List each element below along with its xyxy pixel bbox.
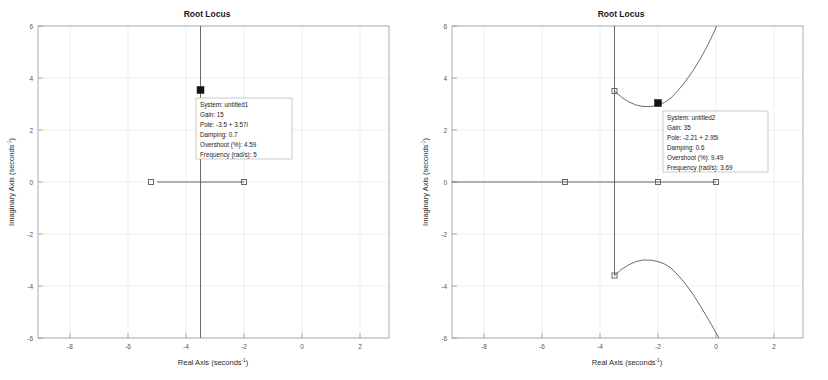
datatip-overshoot: Overshoot (%): 4.59 xyxy=(200,141,257,149)
page-title: Root Locus xyxy=(184,9,231,19)
ytick-label: 6 xyxy=(443,23,447,30)
datatip-overshoot: Overshoot (%): 9.49 xyxy=(667,154,724,162)
xtick-label: -8 xyxy=(67,343,73,350)
datatip-system: System: untitled1 xyxy=(200,101,249,109)
ytick-labels-left: 6 4 2 0 -2 -4 -6 xyxy=(27,23,33,342)
xtick-label: -6 xyxy=(125,343,131,350)
root-locus-panel-left[interactable]: Root Locus xyxy=(0,0,414,380)
xtick-labels-right: -8 -6 -4 -2 0 2 xyxy=(481,343,776,350)
xtick-label: 0 xyxy=(300,343,304,350)
ytick-label: -2 xyxy=(27,231,33,238)
datatip-gain: Gain: 35 xyxy=(667,124,691,131)
root-locus-figure-row: Root Locus xyxy=(0,0,828,380)
ytick-label: 0 xyxy=(443,179,447,186)
yticks-left xyxy=(38,26,43,338)
xtick-label: -8 xyxy=(481,343,487,350)
ytick-label: -6 xyxy=(441,335,447,342)
ytick-label: 4 xyxy=(443,75,447,82)
xtick-label: -4 xyxy=(597,343,603,350)
locus-lower-curved-branch xyxy=(615,260,720,338)
ytick-label: -2 xyxy=(441,231,447,238)
xticks-right xyxy=(484,333,774,338)
xtick-label: 0 xyxy=(714,343,718,350)
datatip-frequency: Frequency (rad/s): 3.69 xyxy=(667,164,733,172)
datatip-left[interactable]: System: untitled1 Gain: 15 Pole: -3.5 + … xyxy=(196,98,292,159)
locus-upper-curved-branch xyxy=(615,26,717,107)
selected-point-marker[interactable] xyxy=(655,100,662,107)
y-axis-label: Imaginary Axis (seconds-1) xyxy=(7,138,16,226)
ytick-label: 4 xyxy=(29,75,33,82)
datatip-frequency: Frequency (rad/s): 5 xyxy=(200,151,257,159)
datatip-pole: Pole: -3.5 + 3.57i xyxy=(200,121,248,128)
y-axis-label: Imaginary Axis (seconds-1) xyxy=(421,138,430,226)
xtick-label: 2 xyxy=(772,343,776,350)
datatip-damping: Damping: 0.7 xyxy=(200,131,238,139)
ytick-label: 2 xyxy=(443,127,447,134)
datatip-system: System: untitled2 xyxy=(667,114,716,122)
ytick-label: 0 xyxy=(29,179,33,186)
x-axis-label: Real Axis (seconds-1) xyxy=(592,358,663,367)
ytick-label: -4 xyxy=(441,283,447,290)
plot-canvas-right[interactable]: Root Locus xyxy=(414,0,828,380)
xtick-labels-left: -8 -6 -4 -2 0 2 xyxy=(67,343,362,350)
xtick-label: 2 xyxy=(358,343,362,350)
datatip-right[interactable]: System: untitled2 Gain: 35 Pole: -2.21 +… xyxy=(663,111,768,172)
xtick-label: -2 xyxy=(241,343,247,350)
xtick-label: -4 xyxy=(183,343,189,350)
datatip-damping: Damping: 0.6 xyxy=(667,144,705,152)
root-locus-panel-right[interactable]: Root Locus xyxy=(414,0,828,380)
ytick-label: 6 xyxy=(29,23,33,30)
xtick-label: -2 xyxy=(655,343,661,350)
datatip-pole: Pole: -2.21 + 2.95i xyxy=(667,134,718,141)
ytick-label: -4 xyxy=(27,283,33,290)
xtick-label: -6 xyxy=(539,343,545,350)
datatip-gain: Gain: 15 xyxy=(200,111,224,118)
page-title: Root Locus xyxy=(598,9,645,19)
xticks-left xyxy=(70,333,360,338)
ytick-label: 2 xyxy=(29,127,33,134)
plot-canvas-left[interactable]: Root Locus xyxy=(0,0,414,380)
ytick-label: -6 xyxy=(27,335,33,342)
ytick-labels-right: 6 4 2 0 -2 -4 -6 xyxy=(441,23,447,342)
x-axis-label: Real Axis (seconds-1) xyxy=(178,358,249,367)
selected-point-marker[interactable] xyxy=(197,87,204,94)
